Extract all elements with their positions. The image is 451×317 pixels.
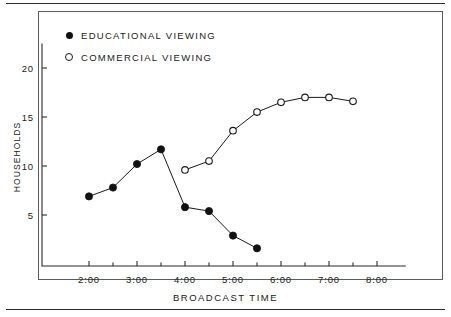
legend-label-educational: EDUCATIONAL VIEWING xyxy=(81,30,216,41)
x-tick-label: 7:00 xyxy=(318,274,340,285)
axes-group xyxy=(42,44,406,267)
y-axis-title: HOUSEHOLDS xyxy=(12,109,22,205)
legend-item-educational: EDUCATIONAL VIEWING xyxy=(62,24,282,46)
x-tick-label: 5:00 xyxy=(222,274,244,285)
y-tick-label: 20 xyxy=(6,63,34,74)
x-tick-label: 3:00 xyxy=(126,274,148,285)
y-tick-label: 5 xyxy=(6,210,34,221)
series-group xyxy=(85,94,356,252)
chart-figure: 2:003:004:005:006:007:008:005101520 EDUC… xyxy=(0,0,451,317)
x-tick-label: 6:00 xyxy=(270,274,292,285)
x-tick-label: 8:00 xyxy=(366,274,388,285)
open-circle-icon xyxy=(62,53,76,61)
filled-circle-icon xyxy=(62,32,76,39)
chart-legend: EDUCATIONAL VIEWING COMMERCIAL VIEWING xyxy=(62,24,282,68)
legend-label-commercial: COMMERCIAL VIEWING xyxy=(81,52,212,63)
legend-item-commercial: COMMERCIAL VIEWING xyxy=(62,46,282,68)
x-tick-label: 4:00 xyxy=(174,274,196,285)
x-axis-title: BROADCAST TIME xyxy=(0,292,451,303)
x-tick-label: 2:00 xyxy=(78,274,100,285)
